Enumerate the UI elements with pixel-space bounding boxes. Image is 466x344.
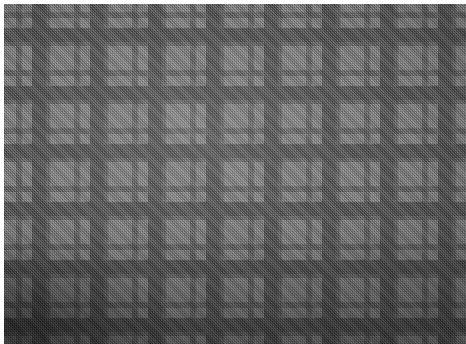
tone-lift-layer	[4, 4, 466, 344]
fabric-swatch-canvas	[0, 0, 466, 344]
tartan-fabric	[4, 4, 466, 344]
